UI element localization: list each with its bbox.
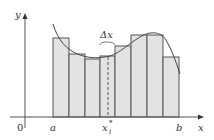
a-label: a — [50, 122, 56, 133]
riemann-rectangle-2 — [69, 54, 85, 117]
y-axis-label: y — [14, 9, 21, 20]
delta-x-brace — [100, 42, 115, 45]
riemann-sum-diagram: y x 0 a b x * i Δx — [0, 0, 214, 140]
riemann-rectangles — [53, 35, 179, 117]
riemann-rectangle-5 — [115, 46, 131, 117]
riemann-rectangle-8 — [163, 57, 179, 117]
b-label: b — [176, 122, 182, 133]
sample-point-sub: i — [109, 128, 111, 136]
diagram-canvas: y x 0 a b x * i Δx — [0, 0, 214, 140]
sample-point-label: x — [102, 122, 108, 133]
delta-x-label: Δx — [99, 29, 113, 40]
y-axis-arrow-icon — [23, 13, 28, 19]
x-axis-label: x — [198, 122, 204, 133]
sample-point-sup: * — [109, 119, 113, 127]
riemann-rectangle-3 — [85, 59, 100, 117]
riemann-rectangle-1 — [53, 38, 69, 117]
riemann-rectangle-6 — [131, 35, 147, 117]
riemann-rectangle-7 — [147, 35, 163, 117]
origin-label: 0 — [17, 122, 23, 133]
x-axis-arrow-icon — [198, 115, 204, 120]
